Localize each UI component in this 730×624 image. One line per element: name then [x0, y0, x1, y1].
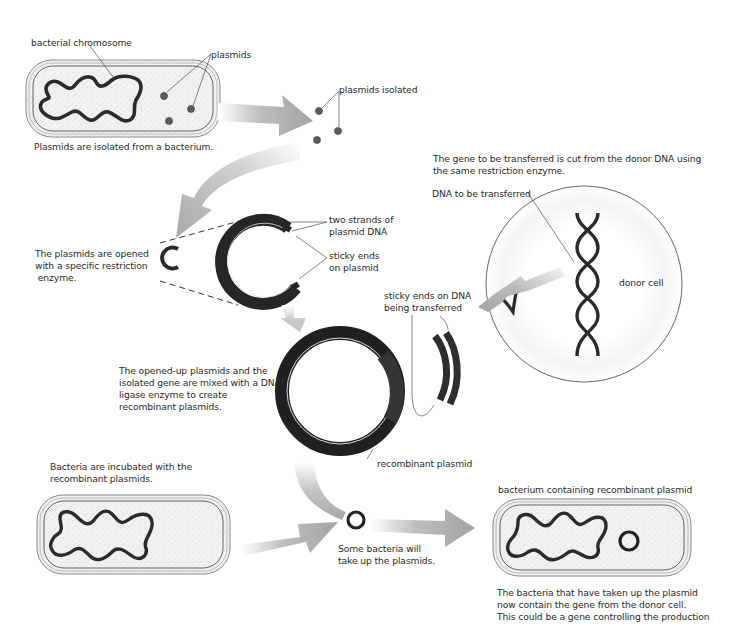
caption-uptake-line1: Some bacteria will: [338, 543, 421, 555]
label-two-strands-line1: two strands of: [329, 214, 393, 226]
label-sticky-ends-plasmid-line2: on plasmid: [329, 262, 379, 274]
small-recombinant-plasmid: [348, 512, 364, 528]
bacterium-recipient: [37, 495, 230, 574]
caption-gene-cut-line1: The gene to be transferred is cut from t…: [433, 153, 701, 165]
label-sticky-ends-dna-line2: being transferred: [384, 302, 462, 314]
caption-incubate-line1: Bacteria are incubated with the: [50, 461, 192, 473]
caption-gene-cut-line2: the same restriction enzyme.: [433, 165, 565, 177]
label-bacterial-chromosome: bacterial chromosome: [31, 37, 132, 49]
label-two-strands-line2: plasmid DNA: [329, 226, 387, 238]
label-donor-cell: donor cell: [619, 277, 663, 289]
arrow-to-result: [370, 509, 475, 547]
plasmid-dot: [166, 118, 173, 125]
caption-ligase-line1: The opened-up plasmids and the: [119, 365, 267, 377]
label-sticky-ends-dna-line1: sticky ends on DNA: [384, 290, 471, 302]
caption-step1: Plasmids are isolated from a bacterium.: [34, 141, 213, 153]
plasmid-dot: [161, 93, 168, 100]
label-plasmids: plasmids: [211, 49, 251, 61]
arrow-to-uptake: [240, 522, 338, 556]
bacterium-recombinant: [493, 499, 691, 576]
label-plasmids-isolated: plasmids isolated: [339, 84, 417, 96]
caption-ligase-line2: isolated gene are mixed with a DNA: [119, 377, 281, 389]
label-sticky-ends-plasmid-line1: sticky ends: [329, 250, 379, 262]
recombinant-plasmid-ring: [282, 333, 398, 449]
genetic-engineering-diagram: bacterial chromosome plasmids plasmids i…: [0, 0, 730, 624]
label-dna-to-be-transferred: DNA to be transferred: [432, 188, 531, 200]
arrow-curve-down: [294, 462, 346, 520]
arrow-down-3: [280, 305, 306, 332]
caption-incubate-line2: recombinant plasmids.: [50, 473, 153, 485]
arrow-right-1: [218, 95, 313, 136]
caption-result-line1: The bacteria that have taken up the plas…: [497, 587, 698, 599]
caption-step2-line3: enzyme.: [35, 272, 76, 284]
caption-step2-line1: The plasmids are opened: [35, 248, 149, 260]
plasmid-dot: [188, 106, 195, 113]
isolated-plasmids: [314, 91, 342, 144]
dna-fragment-sticky: [435, 333, 457, 404]
caption-uptake-line2: take up the plasmids.: [338, 555, 435, 567]
caption-step2-line2: with a specific restriction: [35, 260, 148, 272]
opened-plasmid-large: [221, 220, 300, 304]
label-recombinant-plasmid: recombinant plasmid: [377, 458, 472, 470]
caption-result-line3: This could be a gene controlling the pro…: [497, 611, 710, 623]
label-bacterium-recombinant: bacterium containing recombinant plasmid: [498, 484, 692, 496]
opened-plasmid-small: [162, 248, 178, 269]
caption-ligase-line4: recombinant plasmids.: [119, 401, 222, 413]
caption-result-line2: now contain the gene from the donor cell…: [497, 599, 686, 611]
caption-ligase-line3: ligase enzyme to create: [119, 389, 227, 401]
